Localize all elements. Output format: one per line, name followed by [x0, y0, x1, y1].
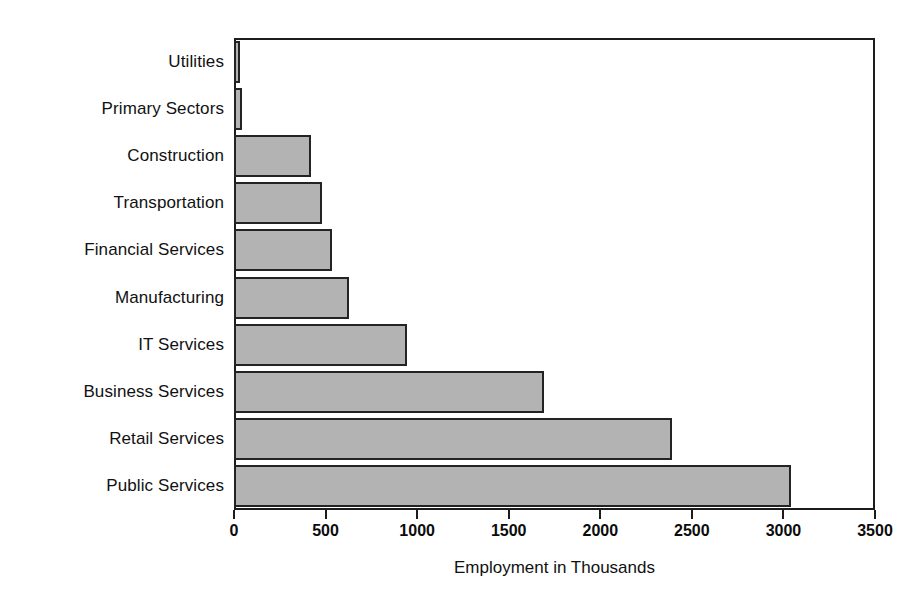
tick-label-3000: 3000	[766, 521, 802, 541]
category-label-public-services: Public Services	[0, 476, 224, 496]
bar	[234, 324, 407, 366]
bar	[234, 229, 332, 271]
bar	[234, 371, 544, 413]
tick-label-0: 0	[230, 521, 239, 541]
bar-slot	[234, 416, 875, 463]
bar	[234, 465, 791, 507]
tick-mark	[233, 510, 235, 519]
category-axis-labels: UtilitiesPrimary SectorsConstructionTran…	[0, 38, 224, 510]
bar	[234, 88, 242, 130]
bar	[234, 418, 672, 460]
category-label-financial-services: Financial Services	[0, 240, 224, 260]
bar	[234, 135, 311, 177]
bar	[234, 41, 240, 83]
tick-label-1000: 1000	[399, 521, 435, 541]
tick-mark	[782, 510, 784, 519]
bar-slot	[234, 368, 875, 415]
bar-chart: UtilitiesPrimary SectorsConstructionTran…	[0, 0, 922, 616]
bar	[234, 182, 322, 224]
category-label-utilities: Utilities	[0, 52, 224, 72]
bar-slot	[234, 85, 875, 132]
bar-slot	[234, 227, 875, 274]
tick-label-2000: 2000	[582, 521, 618, 541]
bar-slot	[234, 274, 875, 321]
tick-mark	[325, 510, 327, 519]
tick-label-1500: 1500	[491, 521, 527, 541]
tick-label-2500: 2500	[674, 521, 710, 541]
x-axis-tick-marks	[234, 510, 875, 520]
bar-slot	[234, 180, 875, 227]
x-axis-tick-labels: 0500100015002000250030003500	[234, 521, 875, 545]
category-label-it-services: IT Services	[0, 335, 224, 355]
category-label-retail-services: Retail Services	[0, 429, 224, 449]
category-label-manufacturing: Manufacturing	[0, 288, 224, 308]
tick-mark	[874, 510, 876, 519]
bar-slot	[234, 132, 875, 179]
x-axis-title: Employment in Thousands	[234, 557, 875, 579]
category-label-primary-sectors: Primary Sectors	[0, 99, 224, 119]
tick-label-3500: 3500	[857, 521, 893, 541]
tick-mark	[508, 510, 510, 519]
tick-mark	[599, 510, 601, 519]
bar-slot	[234, 38, 875, 85]
bars-container	[234, 38, 875, 510]
tick-label-500: 500	[312, 521, 339, 541]
tick-mark	[691, 510, 693, 519]
bar-slot	[234, 321, 875, 368]
category-label-business-services: Business Services	[0, 382, 224, 402]
category-label-construction: Construction	[0, 146, 224, 166]
bar-slot	[234, 463, 875, 510]
tick-mark	[416, 510, 418, 519]
category-label-transportation: Transportation	[0, 193, 224, 213]
bar	[234, 277, 349, 319]
